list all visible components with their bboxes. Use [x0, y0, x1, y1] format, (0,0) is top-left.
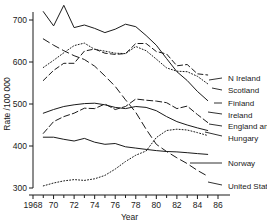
series-label-scotland: Scotland: [228, 86, 259, 95]
y-tick-label: 700: [13, 15, 27, 25]
x-tick-label: 86: [213, 200, 223, 210]
x-tick-label: 1968: [24, 200, 43, 210]
series-label-hungary: Hungary: [228, 134, 258, 143]
x-tick-label: 74: [90, 200, 100, 210]
series-leader-scotland: [212, 88, 222, 90]
series-leader-hungary: [205, 132, 222, 136]
y-tick-label: 400: [13, 141, 27, 151]
x-tick-label: 82: [172, 200, 182, 210]
series-leader-united-states: [208, 182, 222, 185]
series-label-finland: Finland: [228, 99, 254, 108]
series-label-united-states: United States: [228, 182, 267, 191]
y-tick-label: 500: [13, 99, 27, 109]
x-tick-label: 76: [110, 200, 120, 210]
series-line-united-states: [43, 129, 207, 186]
chart-figure: 3004005006007001968707274767880828486Yea…: [0, 0, 267, 224]
x-tick-label: 80: [152, 200, 162, 210]
series-label-n-ireland: N Ireland: [228, 74, 260, 83]
y-tick-label: 600: [13, 57, 27, 67]
series-leader-ireland: [208, 112, 222, 114]
x-tick-label: 84: [193, 200, 203, 210]
series-line-scotland: [43, 43, 207, 84]
series-line-norway: [43, 137, 207, 154]
series-leader-n-ireland: [209, 78, 222, 80]
series-label-ireland: Ireland: [228, 111, 252, 120]
x-tick-label: 72: [69, 200, 79, 210]
series-line-n-ireland: [43, 44, 207, 81]
x-tick-label: 70: [49, 200, 59, 210]
series-line-ireland: [43, 99, 207, 133]
y-tick-label: 300: [13, 183, 27, 193]
series-leader-england-and-wales: [209, 124, 222, 126]
line-chart-svg: 3004005006007001968707274767880828486Yea…: [0, 0, 267, 224]
series-label-england-and-wales: England and Wales: [228, 122, 267, 131]
x-tick-label: 78: [131, 200, 141, 210]
x-axis-title: Year: [121, 212, 138, 222]
series-label-norway: Norway: [228, 159, 255, 168]
y-axis-title: Rate /100 000: [2, 77, 12, 131]
